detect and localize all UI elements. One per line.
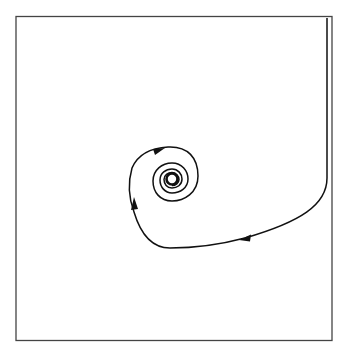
trajectory-path bbox=[129, 18, 327, 248]
phase-portrait-diagram bbox=[0, 0, 347, 354]
arrow-left-icon bbox=[239, 235, 251, 242]
arrow-right-icon bbox=[153, 148, 165, 155]
focus-point bbox=[170, 177, 174, 181]
